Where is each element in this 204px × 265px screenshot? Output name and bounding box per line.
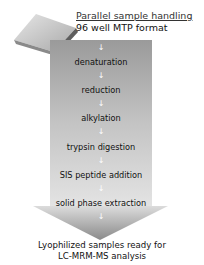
arrow-down-icon: ↓ [96, 72, 106, 80]
arrow-down-icon: ↓ [96, 157, 106, 165]
arrow-down-icon: ↓ [96, 44, 106, 52]
step-reduction: reduction [50, 85, 152, 95]
arrow-down-icon: ↓ [96, 128, 106, 136]
step-sis-peptide-addition: SIS peptide addition [50, 170, 152, 180]
step-trypsin-digestion: trypsin digestion [50, 142, 152, 152]
step-denaturation: denaturation [50, 57, 152, 67]
result-line-2: LC-MRM-MS analysis [0, 251, 204, 261]
arrow-down-icon: ↓ [96, 213, 106, 221]
step-alkylation: alkylation [50, 113, 152, 123]
result-line-1: Lyophilized samples ready for [0, 240, 204, 250]
arrow-down-icon: ↓ [96, 100, 106, 108]
arrow-down-icon: ↓ [96, 185, 106, 193]
step-solid-phase-extraction: solid phase extraction [50, 198, 152, 208]
